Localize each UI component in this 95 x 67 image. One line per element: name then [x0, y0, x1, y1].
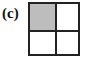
grid-cell-bottom-right — [57, 32, 78, 54]
grid-vertical-divider — [55, 4, 57, 54]
grid-cell-top-right — [57, 4, 78, 30]
grid-cell-bottom-left — [30, 32, 55, 54]
grid-cell-top-left-shaded — [30, 4, 55, 30]
figure-label: (c) — [2, 5, 19, 21]
two-by-two-grid — [28, 2, 80, 56]
grid-horizontal-divider — [30, 30, 78, 32]
